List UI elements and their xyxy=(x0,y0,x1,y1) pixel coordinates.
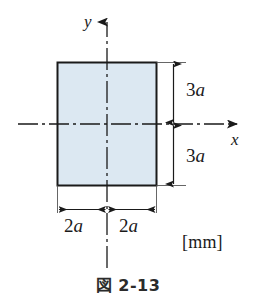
figure-container: y x 3a 3a 2a 2a [mm] 図 2-13 xyxy=(0,0,256,299)
x-axis-label: x xyxy=(231,131,239,148)
dimension-label-width-left: 2a xyxy=(64,216,83,235)
figure-drawing xyxy=(0,0,256,299)
figure-caption: 図 2-13 xyxy=(0,272,256,296)
dimension-label-height-lower: 3a xyxy=(186,146,205,165)
y-axis-label: y xyxy=(84,13,92,30)
unit-label: [mm] xyxy=(182,233,223,251)
dimension-label-width-right: 2a xyxy=(119,216,138,235)
dimension-label-height-upper: 3a xyxy=(186,80,205,99)
